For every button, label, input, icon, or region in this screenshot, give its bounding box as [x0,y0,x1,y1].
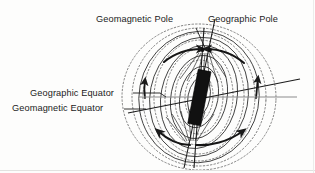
label-geographic-pole: Geographic Pole [208,15,278,24]
geographic-pole-dot [208,48,212,52]
figure-canvas: Geomagnetic Pole Geographic Pole Geograp… [0,0,315,173]
geomagnetic-pole-dot [201,48,205,52]
label-geomagnetic-equator: Geomagnetic Equator [12,104,103,113]
geomagnetic-field-diagram [0,0,315,173]
label-geographic-equator: Geographic Equator [30,89,114,98]
label-geomagnetic-pole: Geomagnetic Pole [96,15,173,24]
